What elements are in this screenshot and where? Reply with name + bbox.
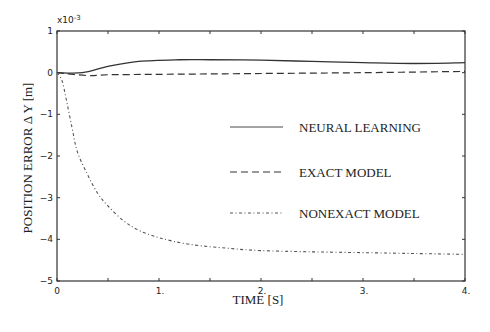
y-tick-label: 0 [47, 68, 53, 78]
x-tick-label: 0 [54, 286, 60, 296]
series-layer [57, 60, 465, 255]
x-tick-label: 1. [156, 286, 165, 296]
line-chart: 01.2.3.4.10−1−2−3−4−5 NEURAL LEARNINGEXA… [0, 0, 490, 332]
y-multiplier-label: x10-3 [57, 14, 81, 25]
legend-label: NONEXACT MODEL [299, 206, 420, 221]
x-tick-label: 3. [360, 286, 369, 296]
y-tick-label: −2 [40, 151, 53, 161]
y-tick-label: −5 [40, 276, 53, 286]
y-tick-label: −4 [40, 234, 54, 244]
legend: NEURAL LEARNINGEXACT MODELNONEXACT MODEL [230, 120, 421, 221]
axis-ticks: 01.2.3.4.10−1−2−3−4−5 [40, 26, 471, 296]
x-axis-label: TIME [S] [233, 292, 284, 307]
y-tick-label: −3 [40, 193, 53, 203]
legend-label: EXACT MODEL [299, 165, 392, 180]
legend-label: NEURAL LEARNING [299, 120, 421, 135]
y-tick-label: −1 [40, 109, 53, 119]
series-line-neural-learning [57, 60, 465, 74]
series-line-exact-model [57, 71, 465, 75]
y-axis-label: POSITION ERROR Δ Y [m] [20, 83, 35, 234]
plot-border [57, 31, 465, 281]
plot-frame [57, 31, 465, 281]
series-line-nonexact-model [57, 73, 465, 255]
y-tick-label: 1 [47, 26, 53, 36]
x-tick-label: 4. [462, 286, 471, 296]
chart-figure: 01.2.3.4.10−1−2−3−4−5 NEURAL LEARNINGEXA… [0, 0, 490, 332]
